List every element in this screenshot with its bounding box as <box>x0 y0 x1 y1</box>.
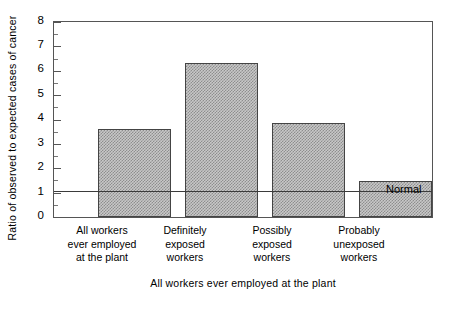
y-tick-label-4: 4 <box>28 111 44 123</box>
bar-definitely-exposed-workers <box>185 63 258 217</box>
y-axis-tick-minor-7-5 <box>54 34 58 35</box>
y-axis-tick-major-4 <box>54 120 61 121</box>
y-tick-label-6: 6 <box>28 62 44 74</box>
x-category-label-3-line-0: Probably <box>307 224 411 238</box>
y-axis-tick-minor-4-5 <box>54 107 58 108</box>
y-axis-tick-minor-0-5 <box>54 205 58 206</box>
y-tick-label-5: 5 <box>28 87 44 99</box>
x-category-label-3-line-2: workers <box>307 251 411 265</box>
y-axis-tick-minor-6-5 <box>54 59 58 60</box>
bar-all-workers-ever-employed <box>98 129 171 217</box>
y-axis-tick-minor-5-5 <box>54 83 58 84</box>
y-tick-label-8: 8 <box>28 14 44 26</box>
x-category-label-3-line-1: unexposed <box>307 238 411 252</box>
y-axis-tick-minor-2-5 <box>54 156 58 157</box>
y-tick-label-3: 3 <box>28 136 44 148</box>
y-axis-tick-major-1 <box>54 193 61 194</box>
normal-annotation-label: Normal <box>386 183 421 195</box>
y-axis-tick-minor-1-5 <box>54 180 58 181</box>
y-axis-title: Ratio of observed to expected cases of c… <box>4 12 20 244</box>
y-axis-tick-major-2 <box>54 168 61 169</box>
plot-area <box>53 21 433 218</box>
y-axis-tick-major-8 <box>54 22 61 23</box>
y-axis-tick-major-3 <box>54 144 61 145</box>
y-tick-label-7: 7 <box>28 38 44 50</box>
y-tick-label-1: 1 <box>28 185 44 197</box>
normal-reference-line <box>54 191 432 192</box>
x-category-label-3: Probably unexposed workers <box>307 224 411 265</box>
y-axis-tick-major-5 <box>54 95 61 96</box>
y-tick-label-0: 0 <box>28 209 44 221</box>
y-axis-tick-major-0 <box>54 217 61 218</box>
y-tick-label-2: 2 <box>28 160 44 172</box>
bar-possibly-exposed-workers <box>272 123 345 217</box>
y-axis-tick-major-7 <box>54 46 61 47</box>
x-axis-title: All workers ever employed at the plant <box>53 277 433 289</box>
y-axis-tick-minor-3-5 <box>54 132 58 133</box>
y-axis-tick-major-6 <box>54 71 61 72</box>
bar-chart-figure: Ratio of observed to expected cases of c… <box>0 0 454 311</box>
